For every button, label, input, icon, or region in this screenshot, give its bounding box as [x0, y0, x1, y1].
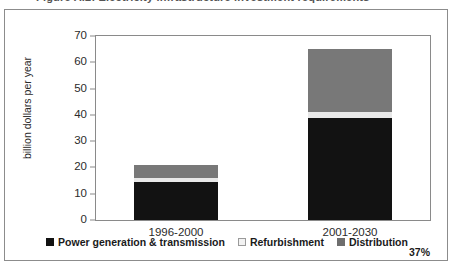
figure-caption-strip: Figure A.2: Electricity infrastructure i… [0, 0, 456, 9]
legend-label-distribution: Distribution [349, 236, 408, 248]
figure-caption: Figure A.2: Electricity infrastructure i… [36, 0, 370, 3]
y-tick-label-30: 30 [74, 133, 87, 148]
y-tick-mark-20 [90, 167, 96, 168]
y-tick-mark-60 [90, 62, 96, 63]
y-tick-mark-50 [90, 88, 96, 89]
y-tick-label-50: 50 [74, 80, 87, 95]
legend-swatch-icon-refurbishment [238, 238, 246, 246]
y-tick-label-60: 60 [74, 54, 87, 69]
y-tick-mark-30 [90, 141, 96, 142]
y-tick-label-10: 10 [74, 185, 87, 200]
y-tick-mark-0 [90, 220, 96, 221]
plot-area: 0 10 20 30 40 50 60 70 [95, 35, 431, 221]
y-axis-title: billion dollars per year [21, 38, 33, 178]
legend-item-distribution[interactable]: Distribution [337, 236, 408, 248]
bar-segment-power-1996-2000[interactable] [134, 182, 218, 220]
legend-label-refurbishment: Refurbishment [250, 236, 324, 248]
legend-item-power-generation-transmission[interactable]: Power generation & transmission [46, 236, 225, 248]
bar-stack-1996-2000[interactable] [134, 165, 218, 220]
chart-legend: Power generation & transmission Refurbis… [5, 236, 449, 248]
legend-label-power: Power generation & transmission [58, 236, 225, 248]
y-tick-label-40: 40 [74, 106, 87, 121]
bar-segment-power-2001-2030[interactable] [308, 118, 392, 221]
figure-box: billion dollars per year 0 10 20 30 40 5… [4, 9, 448, 261]
legend-item-refurbishment[interactable]: Refurbishment [238, 236, 324, 248]
bar-segment-distribution-2001-2030[interactable] [308, 49, 392, 112]
y-tick-label-20: 20 [74, 159, 87, 174]
y-tick-label-0: 0 [81, 212, 87, 227]
y-tick-mark-10 [90, 193, 96, 194]
y-tick-label-70: 70 [74, 28, 87, 43]
bar-segment-distribution-1996-2000[interactable] [134, 165, 218, 178]
legend-swatch-icon-power [46, 238, 54, 246]
y-tick-mark-40 [90, 114, 96, 115]
y-tick-mark-70 [90, 36, 96, 37]
legend-swatch-icon-distribution [337, 238, 345, 246]
bar-stack-2001-2030[interactable] [308, 49, 392, 220]
